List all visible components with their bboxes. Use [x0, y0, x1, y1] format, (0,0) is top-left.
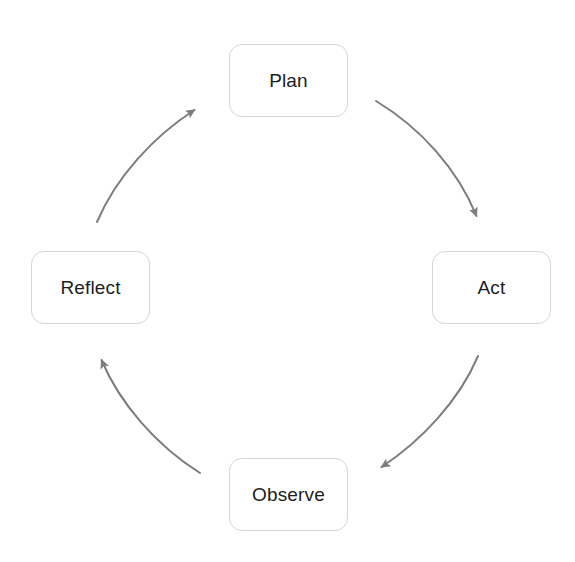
arrow-reflect-to-plan	[97, 110, 195, 222]
node-act[interactable]: Act	[432, 251, 551, 324]
cycle-diagram-canvas: Plan Act Observe Reflect	[0, 0, 575, 562]
node-reflect-label: Reflect	[60, 278, 120, 297]
node-plan-label: Plan	[269, 71, 308, 90]
node-plan[interactable]: Plan	[229, 44, 348, 117]
node-reflect[interactable]: Reflect	[31, 251, 150, 324]
arrow-plan-to-act	[376, 101, 477, 216]
node-observe[interactable]: Observe	[229, 458, 348, 531]
node-act-label: Act	[478, 278, 506, 297]
arrow-observe-to-reflect	[102, 360, 201, 473]
arrow-act-to-observe	[382, 356, 479, 467]
node-observe-label: Observe	[252, 485, 325, 504]
